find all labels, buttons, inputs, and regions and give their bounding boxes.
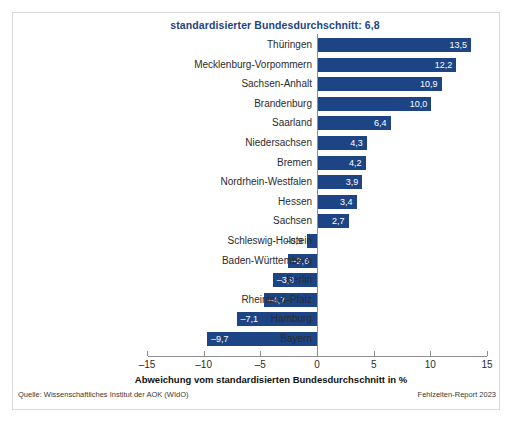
source-note: Quelle: Wissenschaftliches Institut der … [18, 390, 188, 399]
category-label: Hessen [278, 196, 312, 208]
x-axis-line [148, 356, 487, 357]
category-label: Hamburg [271, 313, 312, 325]
category-label: Nordrhein-Westfalen [220, 176, 312, 188]
x-tick-mark [260, 351, 261, 356]
category-label: Bremen [277, 157, 312, 169]
zero-axis-line [317, 34, 318, 356]
x-tick-label: –10 [184, 359, 224, 370]
x-tick-mark [147, 351, 148, 356]
category-label: Sachsen-Anhalt [241, 78, 312, 90]
bar-value-label: 12,2 [318, 58, 452, 72]
category-label: Thüringen [267, 39, 312, 51]
x-axis-title: Abweichung vom standardisierten Bundesdu… [0, 374, 514, 385]
bar-value-label: 6,4 [318, 116, 387, 130]
category-label: Brandenburg [254, 98, 312, 110]
category-label: Saarland [272, 117, 312, 129]
bar-value-label: 10,0 [318, 97, 427, 111]
category-label: Schleswig-Holstein [228, 235, 312, 247]
category-label: Berlin [286, 274, 312, 286]
category-label: Bayern [280, 333, 312, 345]
x-tick-label: 5 [354, 359, 394, 370]
bar-value-label: 13,5 [318, 38, 467, 52]
x-tick-label: –15 [127, 359, 167, 370]
report-note: Fehlzeiten-Report 2023 [418, 390, 496, 399]
x-tick-mark [317, 351, 318, 356]
bar-value-label: 4,2 [318, 156, 362, 170]
category-label: Niedersachsen [245, 137, 312, 149]
x-tick-label: 10 [410, 359, 450, 370]
category-label: Sachsen [273, 215, 312, 227]
x-tick-mark [487, 351, 488, 356]
plot-area: 13,512,210,910,06,44,34,23,93,42,7–0,9–2… [0, 0, 514, 423]
bar-value-label: 4,3 [318, 136, 363, 150]
bar-value-label: 3,9 [318, 175, 358, 189]
x-tick-label: –5 [240, 359, 280, 370]
category-label: Rheinland-Pfalz [241, 294, 312, 306]
bar-value-label: 10,9 [318, 77, 438, 91]
x-tick-label: 0 [297, 359, 337, 370]
bar-value-label: 3,4 [318, 195, 353, 209]
figure: standardisierter Bundesdurchschnitt: 6,8… [0, 0, 514, 423]
x-tick-mark [204, 351, 205, 356]
x-tick-label: 15 [467, 359, 507, 370]
x-tick-mark [374, 351, 375, 356]
bar-value-label: 2,7 [318, 214, 345, 228]
x-tick-mark [430, 351, 431, 356]
category-label: Baden-Württemberg [222, 255, 312, 267]
category-label: Mecklenburg-Vorpommern [194, 59, 312, 71]
